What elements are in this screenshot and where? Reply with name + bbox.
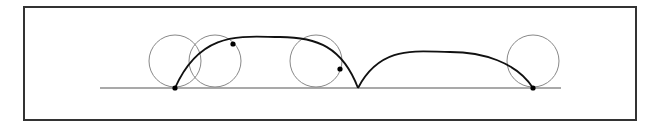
trajectory-point xyxy=(230,41,235,46)
rolling-circle xyxy=(149,35,201,87)
trajectory-point xyxy=(172,85,177,90)
trajectory-point xyxy=(337,66,342,71)
diagram-canvas xyxy=(0,0,658,125)
trajectory-point xyxy=(530,85,535,90)
rolling-circle xyxy=(507,35,559,87)
diagram-frame xyxy=(24,7,636,120)
trajectory-curve xyxy=(175,37,533,88)
trajectory-arch xyxy=(358,51,533,88)
trajectory-points xyxy=(172,41,535,90)
trajectory-arch xyxy=(175,37,358,88)
